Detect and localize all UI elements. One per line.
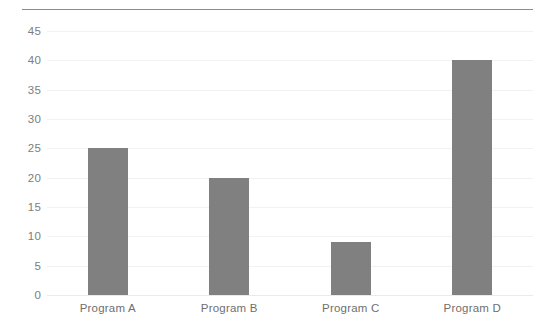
y-axis-tick-labels: 051015202530354045 — [0, 31, 41, 295]
y-tick-label-30: 30 — [1, 113, 41, 125]
y-tick-label-10: 10 — [1, 230, 41, 242]
bar-chart-figure: 051015202530354045 Program AProgram BPro… — [0, 0, 546, 333]
x-tick-slot: Program C — [290, 298, 412, 316]
x-tick-slot: Program D — [412, 298, 534, 316]
plot-area — [47, 31, 533, 295]
y-tick-label-5: 5 — [1, 260, 41, 272]
y-tick-label-40: 40 — [1, 54, 41, 66]
bar-slot — [412, 31, 534, 295]
x-tick-label-program-a: Program A — [80, 302, 136, 314]
x-tick-slot: Program A — [47, 298, 169, 316]
gridline-0 — [47, 295, 533, 296]
x-tick-slot: Program B — [169, 298, 291, 316]
y-tick-label-35: 35 — [1, 84, 41, 96]
y-tick-label-0: 0 — [1, 289, 41, 301]
bar-slot — [47, 31, 169, 295]
y-tick-label-25: 25 — [1, 142, 41, 154]
x-tick-label-program-b: Program B — [201, 302, 258, 314]
x-axis-tick-labels: Program AProgram BProgram CProgram D — [47, 298, 533, 320]
bar-program-a[interactable] — [88, 148, 128, 295]
y-tick-label-20: 20 — [1, 172, 41, 184]
bar-slot — [169, 31, 291, 295]
y-tick-label-45: 45 — [1, 25, 41, 37]
bar-program-b[interactable] — [209, 178, 249, 295]
y-tick-label-15: 15 — [1, 201, 41, 213]
bar-slot — [290, 31, 412, 295]
bar-program-d[interactable] — [452, 60, 492, 295]
x-tick-label-program-d: Program D — [444, 302, 501, 314]
x-tick-label-program-c: Program C — [322, 302, 379, 314]
top-rule-divider — [22, 9, 533, 10]
bar-program-c[interactable] — [331, 242, 371, 295]
